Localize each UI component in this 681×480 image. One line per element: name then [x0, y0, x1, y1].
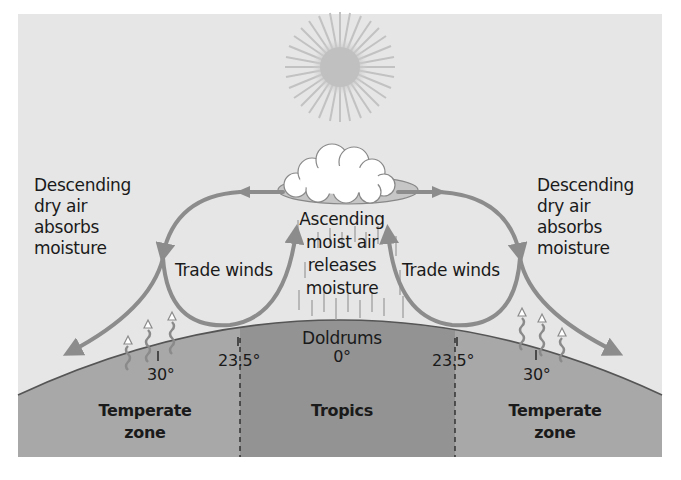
label-line: absorbs: [34, 217, 131, 238]
right-trade-winds-label: Trade winds: [402, 260, 500, 281]
tropics-zone-label: Tropics: [290, 400, 394, 422]
latitude-left-23-5: 23.5°: [218, 350, 260, 371]
right-descending-label: Descending dry air absorbs moisture: [537, 175, 634, 259]
latitude-left-30: 30°: [147, 364, 174, 385]
right-temperate-zone-label: Temperate zone: [490, 400, 620, 444]
label-line: Descending: [34, 175, 131, 196]
label-line: Temperate: [80, 400, 210, 422]
label-line: moisture: [290, 277, 394, 300]
label-line: dry air: [34, 196, 131, 217]
label-line: zone: [490, 422, 620, 444]
latitude-equator: 0°: [325, 346, 359, 367]
ascending-air-label: Ascending moist air releases moisture: [290, 208, 394, 300]
label-line: Ascending: [290, 208, 394, 231]
left-descending-label: Descending dry air absorbs moisture: [34, 175, 131, 259]
label-line: dry air: [537, 196, 634, 217]
latitude-right-30: 30°: [523, 364, 550, 385]
label-line: Temperate: [490, 400, 620, 422]
label-line: zone: [80, 422, 210, 444]
label-line: Descending: [537, 175, 634, 196]
latitude-right-23-5: 23.5°: [432, 350, 474, 371]
sun-icon: [285, 12, 395, 122]
left-trade-winds-label: Trade winds: [175, 260, 273, 281]
label-line: moist air: [290, 231, 394, 254]
left-temperate-zone-label: Temperate zone: [80, 400, 210, 444]
circulation-diagram: Descending dry air absorbs moisture Desc…: [0, 0, 681, 480]
label-line: releases: [290, 254, 394, 277]
label-line: absorbs: [537, 217, 634, 238]
label-line: moisture: [537, 238, 634, 259]
label-line: moisture: [34, 238, 131, 259]
